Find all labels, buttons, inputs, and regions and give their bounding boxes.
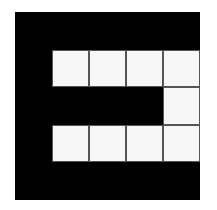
filled-cell [163,12,200,50]
filled-cell [89,162,126,200]
empty-cell [163,50,200,88]
filled-cell [89,87,126,125]
filled-cell [89,12,126,50]
filled-cell [15,50,52,88]
empty-cell [163,125,200,163]
filled-cell [52,12,89,50]
filled-cell [52,162,89,200]
filled-cell [15,12,52,50]
filled-cell [15,162,52,200]
grid-diagram [15,12,200,200]
filled-cell [163,162,200,200]
empty-cell [163,87,200,125]
empty-cell [126,125,163,163]
filled-cell [126,87,163,125]
filled-cell [52,87,89,125]
empty-cell [89,125,126,163]
filled-cell [126,162,163,200]
filled-cell [126,12,163,50]
empty-cell [126,50,163,88]
filled-cell [15,125,52,163]
empty-cell [52,125,89,163]
empty-cell [89,50,126,88]
empty-cell [52,50,89,88]
filled-cell [15,87,52,125]
